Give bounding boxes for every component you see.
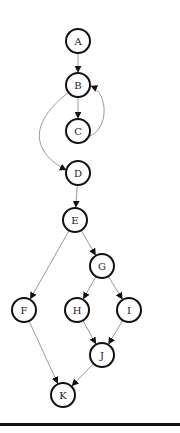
edge-b-to-d xyxy=(39,92,69,170)
node-label: H xyxy=(73,305,82,316)
flow-graph: ABCDEGFHIJK xyxy=(0,0,180,433)
horizontal-rule xyxy=(0,423,180,426)
edge-e-to-g xyxy=(81,230,95,254)
node-label: B xyxy=(74,80,81,91)
edge-f-to-k xyxy=(29,321,58,383)
node-e: E xyxy=(63,208,87,232)
node-c: C xyxy=(66,119,90,143)
node-i: I xyxy=(117,298,141,322)
nodes-layer: ABCDEGFHIJK xyxy=(12,29,141,407)
node-g: G xyxy=(90,254,114,278)
node-b: B xyxy=(66,73,90,97)
node-d: D xyxy=(66,161,90,185)
edge-i-to-j xyxy=(109,320,123,344)
node-label: D xyxy=(74,168,82,179)
edge-e-to-f xyxy=(30,230,69,298)
edge-j-to-k xyxy=(72,364,94,386)
edge-g-to-i xyxy=(108,276,122,299)
node-label: I xyxy=(127,305,131,316)
node-label: G xyxy=(98,261,106,272)
node-k: K xyxy=(51,383,75,407)
node-label: J xyxy=(99,350,104,361)
node-j: J xyxy=(90,343,114,367)
edge-h-to-j xyxy=(83,320,96,343)
node-label: E xyxy=(71,215,78,226)
edge-g-to-h xyxy=(83,276,96,298)
edge-d-to-e xyxy=(76,185,77,207)
node-label: K xyxy=(59,390,67,401)
node-label: F xyxy=(21,305,28,316)
node-label: A xyxy=(73,36,82,47)
node-h: H xyxy=(65,298,89,322)
node-label: C xyxy=(74,126,82,137)
node-a: A xyxy=(66,29,90,53)
node-f: F xyxy=(12,298,36,322)
